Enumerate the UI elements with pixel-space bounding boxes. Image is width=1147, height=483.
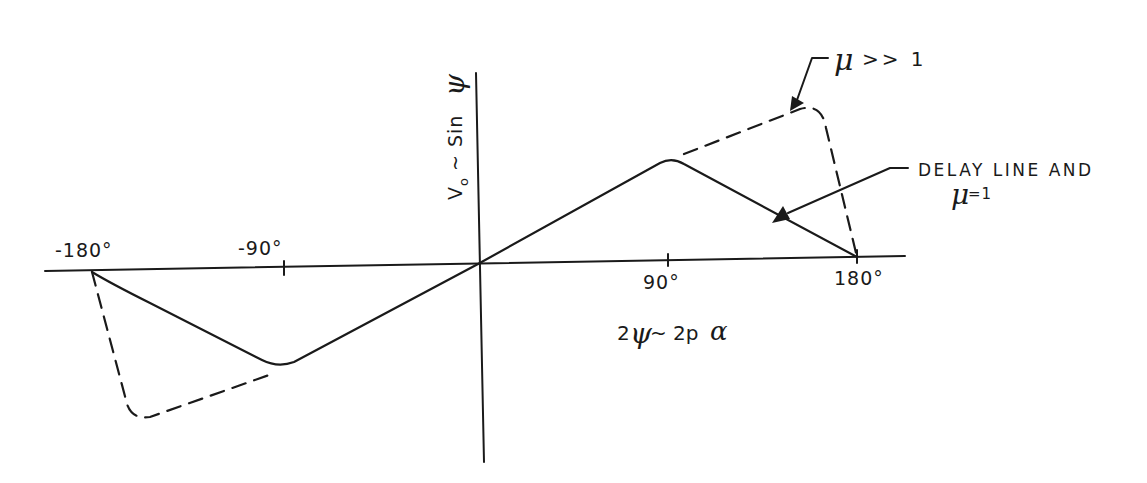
y-label-v: V — [444, 186, 466, 200]
svg-text:Vo~ Sin: Vo~ Sin — [444, 115, 471, 200]
y-label-psi: ψ — [438, 73, 471, 96]
annotation-mu-equals-1-text: =1 — [968, 185, 992, 203]
y-label-rest: ~ Sin — [444, 115, 466, 171]
annotation-delay-line-mu-1: DELAY LINE AND μ =1 — [772, 160, 1094, 223]
x-axis-label: 2 ψ ~ 2p α — [617, 316, 728, 350]
tick-label-minus-90: -90° — [238, 237, 283, 259]
y-axis-label: Vo~ Sin ψ — [438, 73, 471, 200]
phase-detector-characteristic-diagram: -180° -90° 90° 180° Vo~ Sin ψ 2 ψ ~ 2p α… — [0, 0, 1147, 483]
annotation-mu-much-greater-1: μ >> 1 — [790, 42, 927, 111]
leader-line-delay-line — [788, 168, 908, 213]
y-label-sub: o — [456, 177, 471, 186]
x-label-middle: ~ 2p — [650, 321, 699, 345]
y-axis — [476, 73, 484, 462]
annotation-mu-symbol: μ — [834, 42, 854, 77]
tick-labels: -180° -90° 90° 180° — [55, 237, 884, 293]
x-label-2: 2 — [617, 321, 630, 345]
annotation-delay-line-text: DELAY LINE AND — [918, 160, 1094, 180]
tick-label-90: 90° — [643, 271, 680, 293]
leader-line-mu-much-greater-1 — [797, 58, 828, 100]
tick-label-minus-180: -180° — [55, 239, 113, 261]
dashed-curve-mu-much-greater-1-upper — [684, 108, 857, 257]
annotation-mu-1-symbol: μ — [951, 178, 969, 211]
dashed-curve-mu-much-greater-1 — [92, 272, 272, 417]
x-axis — [45, 256, 905, 271]
axes — [45, 73, 905, 462]
x-label-alpha: α — [710, 316, 728, 346]
annotation-mu-much-greater-text: >> 1 — [862, 47, 927, 71]
tick-label-180: 180° — [834, 267, 884, 289]
solid-curve-delay-line-mu-1 — [92, 160, 857, 364]
